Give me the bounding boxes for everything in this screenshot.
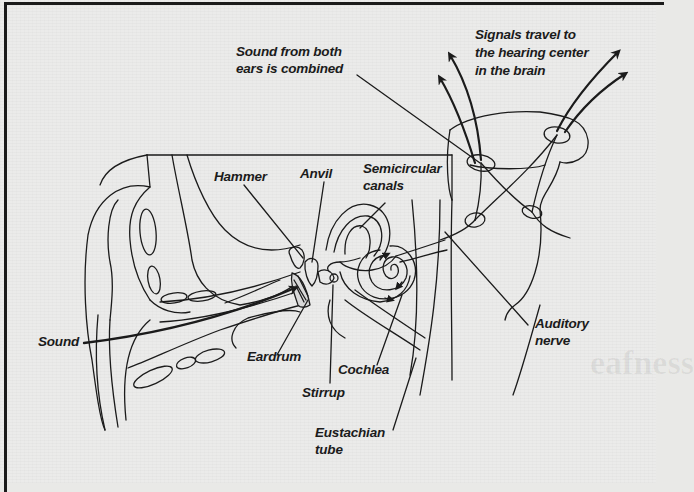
label-eardrum: Eardrum (247, 348, 301, 365)
label-cochlea: Cochlea (338, 361, 389, 378)
label-stirrup: Stirrup (302, 384, 345, 401)
label-anvil: Anvil (300, 165, 332, 182)
label-sound-combined: Sound from both ears is combined (236, 43, 343, 77)
label-semicircular-canals: Semicircular canals (363, 160, 442, 194)
label-signals-travel: Signals travel to the hearing center in … (475, 26, 588, 80)
label-sound: Sound (38, 333, 79, 350)
label-auditory-nerve: Auditory nerve (535, 315, 589, 349)
label-hammer: Hammer (214, 168, 267, 185)
inner-ear (326, 204, 447, 350)
label-eustachian-tube: Eustachian tube (315, 424, 385, 458)
